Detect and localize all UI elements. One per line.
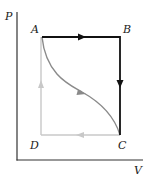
- arrow-b-c-icon: [117, 80, 124, 88]
- pv-diagram: P V A B C D: [0, 0, 149, 178]
- point-a-label: A: [30, 23, 39, 36]
- path-a-c-curve: [42, 37, 120, 135]
- x-axis-label: V: [134, 164, 143, 177]
- path-a-b-c: [42, 37, 120, 135]
- arrow-c-d-icon: [76, 132, 84, 138]
- point-b-label: B: [122, 23, 131, 36]
- point-c-label: C: [118, 139, 127, 152]
- point-d-label: D: [29, 139, 39, 152]
- y-axis-label: P: [4, 10, 13, 23]
- arrow-d-a-icon: [38, 80, 44, 88]
- arrow-a-b-icon: [78, 34, 86, 41]
